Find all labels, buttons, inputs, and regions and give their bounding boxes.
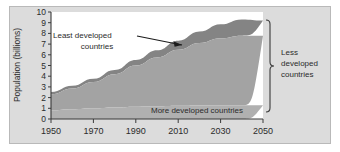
annotation-least-developed-line1: Least developed [53, 31, 112, 40]
y-tick-label: 0 [41, 114, 46, 124]
y-tick-label: 8 [41, 28, 46, 38]
less-developed-brace-icon [266, 20, 274, 112]
x-tick-label: 1950 [41, 126, 61, 136]
x-tick-label: 2010 [168, 126, 188, 136]
x-tick-label: 2030 [211, 126, 231, 136]
y-tick-label: 6 [41, 50, 46, 60]
y-axis-title: Population (billions) [12, 28, 22, 102]
annotation-less-developed-line3: countries [281, 70, 313, 79]
y-tick-label: 10 [37, 7, 47, 17]
annotation-less-developed-line2: developed [281, 59, 318, 68]
x-axis-ticks: 195019701990201020302050 [41, 119, 273, 136]
figure-container: 012345678910 195019701990201020302050 Po… [0, 0, 340, 152]
y-axis-ticks: 012345678910 [37, 7, 51, 124]
y-tick-label: 3 [41, 82, 46, 92]
x-tick-label: 1990 [126, 126, 146, 136]
annotation-more-developed-countries: More developed countries [151, 106, 243, 115]
y-tick-label: 1 [41, 103, 46, 113]
x-tick-label: 1970 [83, 126, 103, 136]
x-tick-label: 2050 [253, 126, 273, 136]
annotation-least-developed-line2: countries [81, 42, 113, 51]
y-tick-label: 9 [41, 18, 46, 28]
y-tick-label: 7 [41, 39, 46, 49]
chart-svg: 012345678910 195019701990201020302050 Po… [0, 0, 340, 152]
y-tick-label: 4 [41, 71, 46, 81]
y-tick-label: 2 [41, 93, 46, 103]
y-tick-label: 5 [41, 61, 46, 71]
annotation-less-developed-line1: Less [281, 48, 298, 57]
